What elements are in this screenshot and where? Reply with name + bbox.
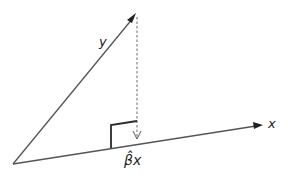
label-projection-beta-hat-x: β̂x xyxy=(124,153,141,167)
x-arrowhead-icon xyxy=(253,122,263,129)
right-angle-marker xyxy=(111,121,137,148)
y-arrowhead-icon xyxy=(127,13,136,23)
diagram-canvas xyxy=(0,0,290,178)
label-x: x xyxy=(268,117,276,130)
y-vector xyxy=(13,18,133,164)
label-y: y xyxy=(99,35,107,48)
